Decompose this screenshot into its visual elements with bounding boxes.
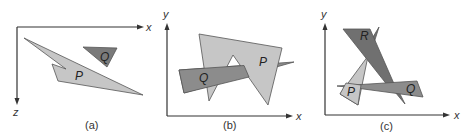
x-axis-label: x xyxy=(453,109,460,121)
polygon-p xyxy=(24,38,143,95)
polygon-r xyxy=(343,29,395,86)
x-axis-label: x xyxy=(295,110,302,122)
caption-a: (a) xyxy=(85,119,98,131)
x-axis-label: x xyxy=(145,21,152,33)
polygon-q-label: Q xyxy=(406,82,415,96)
panel-a: x z P Q (a) xyxy=(12,21,152,131)
y-axis-label: y xyxy=(162,8,170,20)
polygon-p-label: P xyxy=(259,55,267,69)
y-axis-arrow-icon xyxy=(323,23,328,30)
polygon-p-label: P xyxy=(347,85,355,99)
polygon-q-label: Q xyxy=(100,50,109,64)
x-axis-arrow-icon xyxy=(137,25,144,30)
polygon-p-label: P xyxy=(75,69,83,83)
caption-b: (b) xyxy=(223,119,236,131)
z-axis-label: z xyxy=(12,106,19,118)
polygon-overlap-diagram: x z P Q (a) x y Q P (b) x y xyxy=(0,0,474,140)
z-axis-arrow-icon xyxy=(15,98,20,105)
panel-b: x y Q P (b) xyxy=(162,8,302,131)
polygon-q-label: Q xyxy=(199,71,208,85)
panel-c: x y R P Q (c) xyxy=(320,8,460,132)
x-axis-arrow-icon xyxy=(443,113,450,118)
x-axis-arrow-icon xyxy=(286,114,293,119)
polygon-r-label: R xyxy=(360,29,369,43)
y-axis-arrow-icon xyxy=(165,23,170,30)
caption-c: (c) xyxy=(380,120,393,132)
y-axis-label: y xyxy=(320,8,328,20)
